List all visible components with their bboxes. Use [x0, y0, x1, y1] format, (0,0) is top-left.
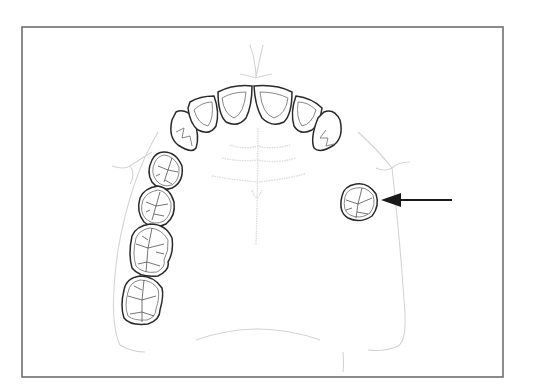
- pointer-arrow: [381, 193, 452, 207]
- tooth-right-second-molar: [122, 276, 163, 324]
- arrow-head-icon: [381, 193, 401, 207]
- tooth-right-first-molar: [130, 224, 173, 276]
- right-posterior-teeth: [122, 152, 182, 324]
- tooth-right-second-premolar: [139, 186, 175, 227]
- dental-arch-diagram: [0, 0, 539, 389]
- tooth-right-first-premolar: [149, 152, 182, 189]
- tooth-left-central-incisor: [254, 86, 292, 125]
- figure-frame: [22, 27, 503, 377]
- tooth-left-isolated-premolar: [341, 184, 377, 221]
- anterior-teeth: [171, 86, 341, 151]
- palatal-rugae: [212, 128, 305, 245]
- tooth-right-central-incisor: [218, 86, 252, 125]
